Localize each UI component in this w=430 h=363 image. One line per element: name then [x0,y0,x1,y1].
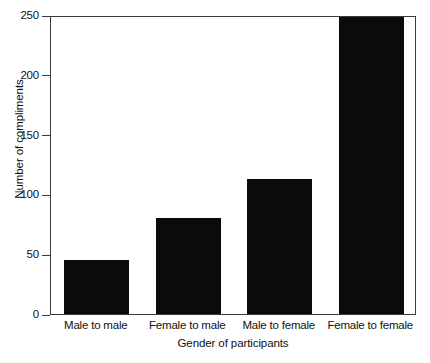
x-axis-tick-label: Female to female [325,319,417,331]
x-axis-tick-label: Male to female [233,319,325,331]
y-axis-tick [42,75,50,76]
y-axis-tick [42,255,50,256]
x-axis-tick-label: Female to male [142,319,234,331]
bars-layer [51,17,415,314]
y-axis-tick-label: 200 [5,70,39,82]
y-axis-tick-label-wrap: 50 [0,249,39,261]
bar [156,218,221,314]
y-axis-tick-label-wrap: 200 [0,70,39,82]
y-axis-tick-label-wrap: 150 [0,130,39,142]
y-axis-tick-label: 150 [5,130,39,142]
y-axis-tick [42,315,50,316]
y-axis-tick-label: 50 [5,249,39,261]
y-axis-tick-label: 0 [5,309,39,321]
y-axis-tick [42,135,50,136]
x-axis-tick-labels: Male to maleFemale to maleMale to female… [50,319,416,335]
bar-chart-figure: Number of compliments 050100150200250 Ma… [0,0,430,363]
bar [339,17,404,314]
plot-area [50,16,416,315]
bar [247,179,312,314]
y-axis-tick [42,195,50,196]
x-axis-tick-label: Male to male [50,319,142,331]
y-axis-tick-label-wrap: 250 [0,10,39,22]
y-axis-tick-label: 250 [5,10,39,22]
y-axis-tick-label-wrap: 0 [0,309,39,321]
y-axis-tick-label-wrap: 100 [0,189,39,201]
y-axis-tick [42,16,50,17]
bar [64,260,129,314]
y-axis-tick-label: 100 [5,189,39,201]
x-axis-title: Gender of participants [50,337,416,349]
